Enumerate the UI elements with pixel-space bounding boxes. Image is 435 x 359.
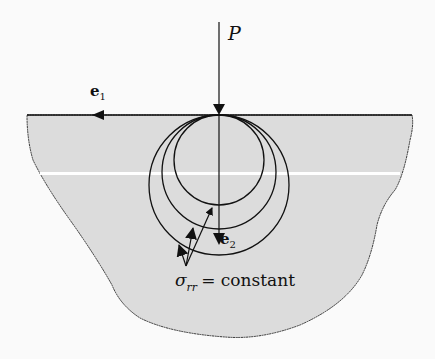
scan-stripe <box>40 172 400 175</box>
diagram-canvas <box>0 0 435 359</box>
sigma-rest: = constant <box>201 270 295 290</box>
e2-label-sub: 2 <box>230 239 236 250</box>
e2-label: e2 <box>220 230 236 248</box>
e1-label-base: e <box>90 82 100 100</box>
sigma-symbol: σ <box>175 270 187 290</box>
load-label: P <box>228 22 241 44</box>
e2-label-base: e <box>220 230 230 248</box>
load-arrow-icon <box>213 104 225 115</box>
sigma-label: σrr= constant <box>175 270 295 290</box>
half-space-body <box>27 115 413 338</box>
e1-label-sub: 1 <box>100 91 106 102</box>
e1-label: e1 <box>90 82 106 100</box>
sigma-subscript: rr <box>187 281 198 294</box>
